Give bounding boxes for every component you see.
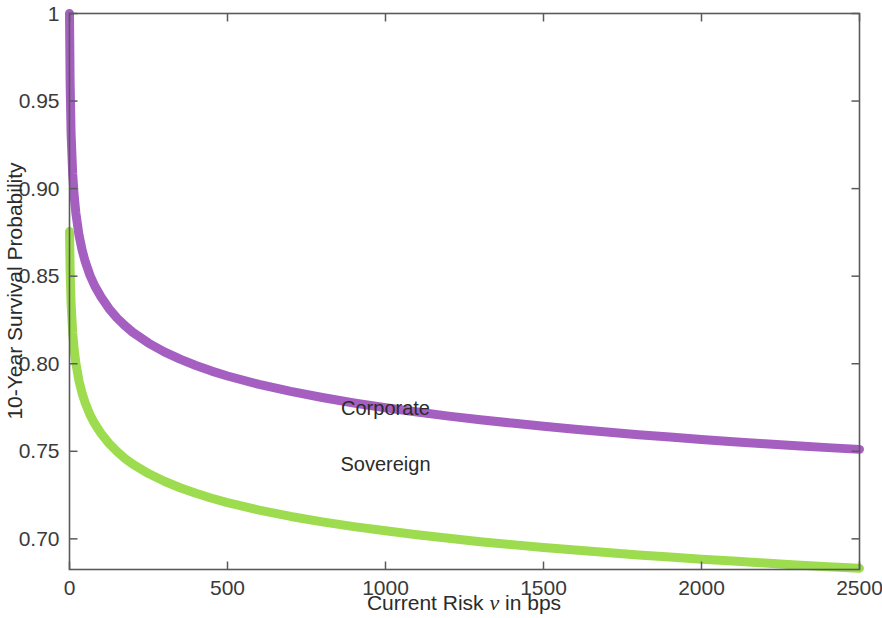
series-label-sovereign: Sovereign — [340, 453, 430, 475]
chart-figure: 05001000150020002500 0.700.750.800.850.9… — [0, 0, 882, 618]
y-tick-label-0.70: 0.70 — [19, 527, 60, 550]
x-tick-label-2500: 2500 — [836, 576, 882, 599]
y-tick-label-0.75: 0.75 — [19, 439, 60, 462]
x-axis-title: Current Risk ν in bps — [367, 590, 561, 615]
x-axis-title-prefix: Current Risk — [367, 591, 490, 614]
series-label-corporate: Corporate — [341, 397, 430, 419]
y-axis-title: 10-Year Survival Probability — [3, 162, 26, 420]
figure-background — [0, 0, 882, 618]
nu-symbol: ν — [489, 590, 499, 615]
x-axis-title-suffix: in bps — [499, 591, 561, 614]
survival-probability-chart: 05001000150020002500 0.700.750.800.850.9… — [0, 0, 882, 618]
x-tick-label-500: 500 — [210, 576, 245, 599]
x-tick-label-2000: 2000 — [678, 576, 725, 599]
x-tick-label-0: 0 — [64, 576, 76, 599]
y-tick-label-1: 1 — [48, 2, 60, 25]
y-tick-label-0.95: 0.95 — [19, 89, 60, 112]
